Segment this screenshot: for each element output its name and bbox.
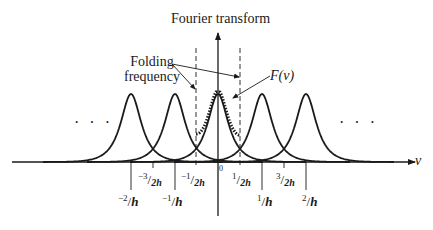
tick-label-minus-1-over-2h: −1/2h — [181, 171, 205, 188]
folding-label-line1: Folding — [124, 54, 180, 69]
tick-label-minus-2-over-h: −2/h — [118, 193, 138, 210]
ellipsis-left: · · · — [74, 114, 113, 132]
figure-title: Fourier transform — [171, 11, 270, 27]
tick-label-minus-1-over-h: −1/h — [162, 193, 182, 210]
origin-label: 0 — [219, 164, 223, 173]
transform-label: F(ν) — [270, 68, 294, 84]
folding-frequency-label: Folding frequency — [124, 54, 180, 84]
tick-label-1-over-2h: 1/2h — [232, 171, 251, 188]
tick-label-1-over-h: 1/h — [257, 193, 272, 210]
ellipsis-right: · · · — [339, 114, 378, 132]
tick-label-minus-3-over-2h: −3/2h — [138, 171, 162, 188]
folding-label-line2: frequency — [124, 69, 180, 84]
tick-label-3-over-2h: 3/2h — [276, 171, 295, 188]
axis-label-nu: ν — [415, 153, 421, 169]
transform-pointer — [233, 76, 270, 98]
tick-label-2-over-h: 2/h — [302, 193, 317, 210]
